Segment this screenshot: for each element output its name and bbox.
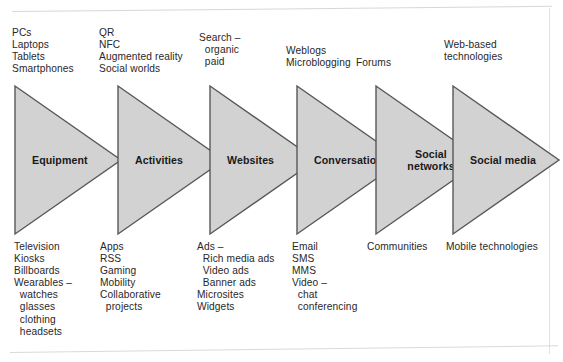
top-items-conversations: Weblogs Microblogging: [286, 45, 351, 69]
top-items-social-media: Web-based technologies: [444, 39, 502, 63]
stage-arrow-equipment[interactable]: Equipment: [14, 85, 122, 235]
top-items-websites: Search – organic paid: [199, 32, 241, 68]
bottom-items-conversations: Email SMS MMS Video – chat conferencing: [292, 241, 357, 314]
top-items-equipment: PCs Laptops Tablets Smartphones: [12, 27, 74, 75]
diagram-canvas: PCs Laptops Tablets Smartphones QR NFC A…: [0, 0, 563, 362]
top-items-social-networks: Forums: [356, 57, 391, 69]
bottom-items-activities: Apps RSS Gaming Mobility Collaborative p…: [100, 241, 161, 314]
page-scan-bottom-line: [10, 345, 558, 353]
bottom-items-equipment: Television Kiosks Billboards Wearables –…: [14, 241, 72, 338]
bottom-items-social-networks: Communities: [367, 241, 428, 253]
bottom-items-websites: Ads – Rich media ads Video ads Banner ad…: [197, 241, 274, 314]
top-items-activities: QR NFC Augmented reality Social worlds: [99, 27, 183, 75]
stage-arrow-social-media[interactable]: Social media: [452, 85, 560, 235]
page-scan-top-line: [12, 6, 552, 12]
bottom-items-social-media: Mobile technologies: [446, 241, 538, 253]
